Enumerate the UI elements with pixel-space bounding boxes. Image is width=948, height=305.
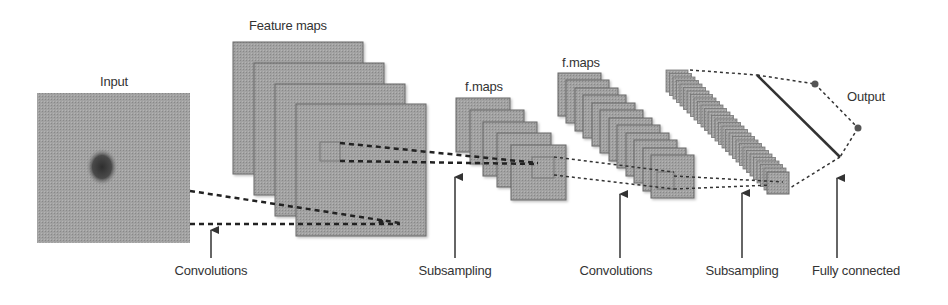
fully-connected-layer	[757, 75, 840, 157]
label-stage-convolutions-2: Convolutions	[580, 263, 653, 278]
cnn-diagram: Input Feature maps f.maps f.maps Output …	[0, 0, 948, 305]
label-stage-subsampling-2: Subsampling	[706, 263, 779, 278]
label-feature-maps: Feature maps	[249, 18, 327, 33]
output-node-1	[812, 81, 819, 88]
label-stage-subsampling-1: Subsampling	[419, 263, 492, 278]
input-blob	[86, 148, 118, 186]
input-image	[37, 93, 190, 243]
label-stage-convolutions-1: Convolutions	[175, 263, 248, 278]
label-input: Input	[100, 74, 128, 89]
label-output: Output	[847, 89, 885, 104]
label-fmaps-2: f.maps	[562, 55, 600, 70]
label-fmaps-1: f.maps	[465, 79, 503, 94]
feature-maps-stack	[233, 42, 426, 236]
fmaps-1-stack	[456, 98, 566, 200]
output-node-2	[855, 125, 862, 132]
label-stage-fully-connected: Fully connected	[812, 263, 900, 278]
